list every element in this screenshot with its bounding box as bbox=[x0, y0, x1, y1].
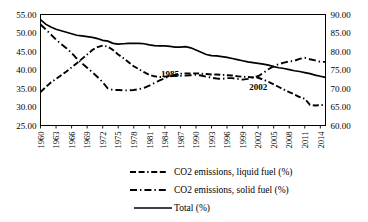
series-line-dash-dash-dot bbox=[41, 46, 326, 106]
chart-annotation-1985: 1985 bbox=[161, 69, 180, 79]
x-axis-tick-labels: 1960196319661969197219751978198119841987… bbox=[36, 131, 326, 149]
x-axis-tick-label: 1966 bbox=[67, 132, 77, 149]
series-lines bbox=[41, 20, 326, 106]
x-axis-tick-label: 1981 bbox=[145, 132, 155, 149]
right-axis-tick-label: 80.00 bbox=[331, 47, 352, 57]
left-axis-tick-label: 25.00 bbox=[16, 121, 37, 131]
x-axis-tick-label: 1999 bbox=[238, 132, 248, 149]
x-axis-tick-label: 1978 bbox=[129, 132, 139, 149]
left-axis-tick-label: 50.00 bbox=[16, 28, 37, 38]
x-axis-tick-label: 1975 bbox=[113, 132, 123, 149]
x-axis-tick-label: 2011 bbox=[300, 132, 310, 149]
x-axis-tick-label: 1963 bbox=[51, 132, 61, 149]
x-axis-tick-label: 1996 bbox=[222, 132, 232, 149]
chart-legend: CO2 emissions, liquid fuel (%)CO2 emissi… bbox=[130, 167, 292, 214]
plot-area-border bbox=[41, 15, 326, 126]
chart-svg: 55.0050.0045.0040.0035.0030.0025.00 90.0… bbox=[0, 0, 368, 222]
left-axis-tick-label: 40.00 bbox=[16, 65, 37, 75]
right-axis-tick-label: 60.00 bbox=[331, 121, 352, 131]
left-axis-tick-label: 45.00 bbox=[16, 47, 37, 57]
x-axis-tick-label: 1987 bbox=[176, 132, 186, 149]
x-axis-tick-label: 1972 bbox=[98, 132, 108, 149]
left-axis-tick-labels: 55.0050.0045.0040.0035.0030.0025.00 bbox=[16, 10, 37, 131]
right-axis-tick-label: 70.00 bbox=[331, 84, 352, 94]
x-axis-tick-label: 1993 bbox=[207, 132, 217, 149]
x-axis-tick-label: 1990 bbox=[191, 132, 201, 149]
series-line-solid bbox=[41, 20, 326, 78]
legend-label: Total (%) bbox=[174, 203, 210, 214]
chart-annotation-2002: 2002 bbox=[249, 82, 268, 92]
x-axis-tick-label: 2002 bbox=[253, 132, 263, 149]
right-axis-tick-labels: 90.0085.0080.0075.0070.0065.0060.00 bbox=[331, 10, 352, 131]
legend-label: CO2 emissions, solid fuel (%) bbox=[174, 185, 289, 196]
right-axis-tick-label: 75.00 bbox=[331, 65, 352, 75]
x-axis-tick-label: 1969 bbox=[82, 132, 92, 149]
right-axis-tick-label: 90.00 bbox=[331, 10, 352, 20]
co2-emissions-chart: 55.0050.0045.0040.0035.0030.0025.00 90.0… bbox=[0, 0, 368, 222]
left-axis-tick-label: 35.00 bbox=[16, 84, 37, 94]
x-axis-tick-label: 1960 bbox=[36, 132, 46, 149]
x-axis-tick-label: 2014 bbox=[316, 131, 326, 149]
left-axis-tick-label: 30.00 bbox=[16, 102, 37, 112]
chart-annotations: 19852002 bbox=[161, 69, 268, 92]
left-axis-tick-label: 55.00 bbox=[16, 10, 37, 20]
x-axis-tick-label: 1984 bbox=[160, 131, 170, 149]
right-axis-tick-label: 65.00 bbox=[331, 102, 352, 112]
legend-label: CO2 emissions, liquid fuel (%) bbox=[174, 167, 292, 178]
x-axis-tick-label: 2005 bbox=[269, 132, 279, 149]
right-axis-tick-label: 85.00 bbox=[331, 28, 352, 38]
x-axis-tick-label: 2008 bbox=[284, 132, 294, 149]
